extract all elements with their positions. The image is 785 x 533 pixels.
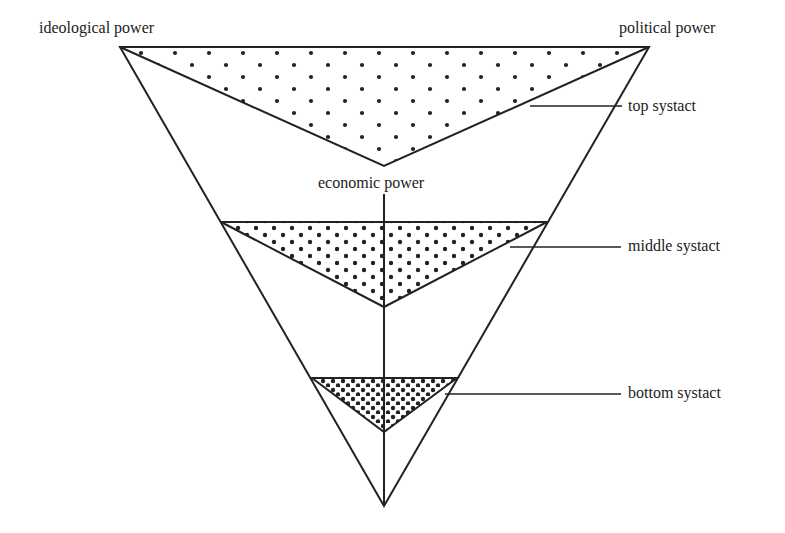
middle-systact-label: middle systact bbox=[628, 237, 720, 255]
economic-power-label: economic power bbox=[318, 174, 424, 192]
ideological-power-label: ideological power bbox=[39, 19, 154, 37]
bottom-systact-label: bottom systact bbox=[628, 384, 721, 402]
political-power-label: political power bbox=[619, 19, 715, 37]
power-diagram bbox=[0, 0, 785, 533]
top-systact-label: top systact bbox=[628, 97, 696, 115]
